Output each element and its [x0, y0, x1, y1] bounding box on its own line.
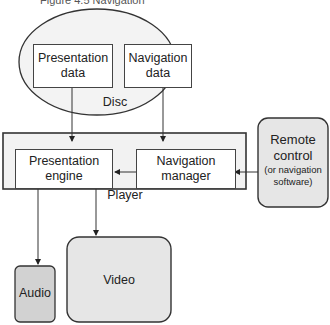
- navigation-manager-label: Navigation manager: [137, 154, 235, 184]
- presentation-engine-box: Presentation engine: [15, 149, 113, 189]
- player-label: Player: [105, 188, 145, 202]
- remote-control-subtitle: (or navigation software): [260, 164, 326, 188]
- remote-control-title: Remote control: [268, 132, 318, 164]
- presentation-engine-label: Presentation engine: [16, 154, 112, 184]
- navigation-data-label: Navigation data: [125, 51, 191, 81]
- disc-label: Disc: [95, 95, 135, 109]
- audio-label: Audio: [15, 286, 55, 300]
- navigation-data-box: Navigation data: [124, 44, 192, 88]
- navigation-manager-box: Navigation manager: [136, 149, 236, 189]
- remote-control-node: Remote control (or navigation software): [258, 132, 328, 188]
- presentation-data-box: Presentation data: [33, 44, 113, 88]
- presentation-data-label: Presentation data: [34, 51, 112, 81]
- video-label: Video: [67, 273, 171, 287]
